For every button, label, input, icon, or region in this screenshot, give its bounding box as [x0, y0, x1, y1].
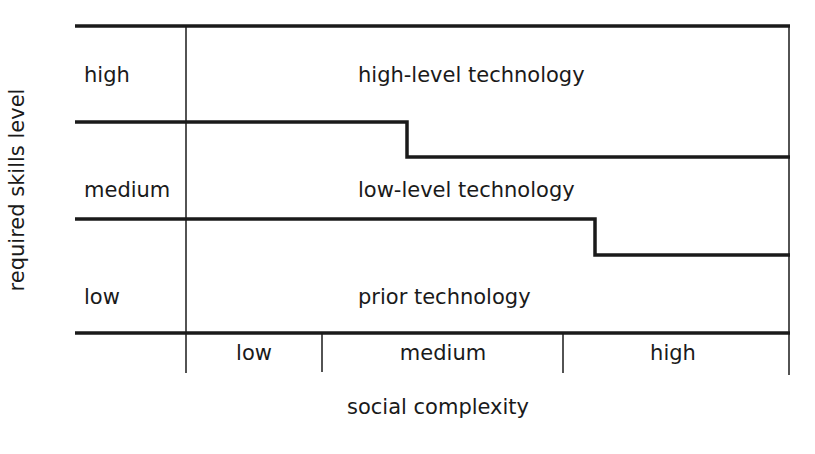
- col-label-low: low: [236, 343, 272, 364]
- row-label-low: low: [84, 287, 120, 308]
- high-tech-boundary-step-line: [75, 122, 790, 157]
- y-axis-label: required skills level: [5, 89, 29, 292]
- low-tech-boundary-step-line: [75, 219, 790, 255]
- region-label-prior-technology: prior technology: [358, 287, 531, 308]
- region-label-low-level-technology: low-level technology: [358, 180, 575, 201]
- row-label-high: high: [84, 65, 130, 86]
- col-label-high: high: [650, 343, 696, 364]
- region-label-high-level-technology: high-level technology: [358, 65, 585, 86]
- row-label-medium: medium: [84, 180, 170, 201]
- col-label-medium: medium: [400, 343, 486, 364]
- x-axis-label: social complexity: [347, 397, 529, 418]
